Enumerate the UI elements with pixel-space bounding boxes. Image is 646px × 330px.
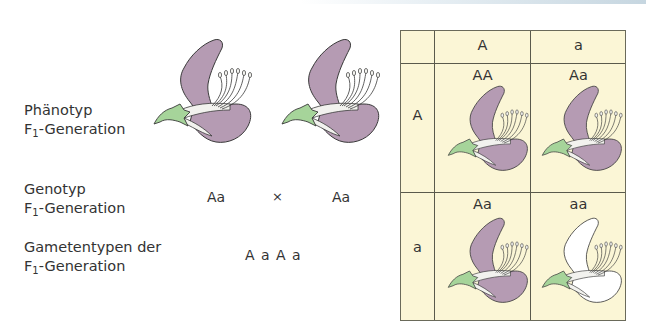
punnett-square: A a A a AA Aa Aa aa <box>400 30 626 321</box>
cell-aa-white-flower-icon <box>539 217 629 307</box>
cell-genotype-aa: aa <box>531 196 626 212</box>
cross-operator: × <box>272 189 283 204</box>
row-header-a: a <box>401 239 434 255</box>
phenotype-label: Phänotyp F1-Generation <box>24 101 125 139</box>
cell-genotype-AA: AA <box>435 67 530 83</box>
cell-genotype-Aa-top: Aa <box>531 67 626 83</box>
cell-AA-flower-icon <box>445 85 535 175</box>
parent2-flower-icon <box>278 38 388 148</box>
col-header-A: A <box>435 37 530 53</box>
genotype-label: Genotyp F1-Generation <box>24 180 125 218</box>
cell-genotype-Aa-bottom: Aa <box>435 196 530 212</box>
table-divider <box>401 63 625 64</box>
gametes-label: Gametentypen der F1-Generation <box>24 238 161 276</box>
parent1-genotype: Aa <box>207 189 225 205</box>
row-header-A: A <box>401 107 434 123</box>
header-gradient-bar <box>300 0 646 4</box>
parent2-genotype: Aa <box>332 189 350 205</box>
col-header-a: a <box>531 37 626 53</box>
parent1-flower-icon <box>150 38 260 148</box>
cell-Aa-top-flower-icon <box>539 85 629 175</box>
cell-Aa-bottom-flower-icon <box>445 217 535 307</box>
gametes-list: A a A a <box>245 247 301 263</box>
table-divider <box>401 192 625 193</box>
